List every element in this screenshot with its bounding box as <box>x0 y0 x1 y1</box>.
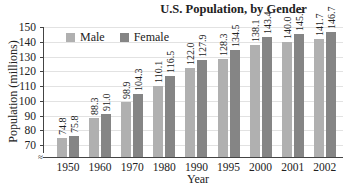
bar-value-label: 88.3 <box>89 98 100 116</box>
bar-value-label: 110.1 <box>153 61 164 83</box>
bar-value-label: 141.7 <box>314 14 325 37</box>
y-tick-label: 80 <box>6 124 36 136</box>
y-tick-label: 100 <box>6 95 36 107</box>
bar-value-label: 98.9 <box>121 82 132 100</box>
bar-male <box>314 39 324 157</box>
bar-male <box>185 68 195 157</box>
x-tick-label: 1980 <box>148 161 180 173</box>
legend-label-male: Male <box>80 30 105 45</box>
legend-swatch-female <box>120 33 129 42</box>
x-tick-label: 1970 <box>116 161 148 173</box>
x-tick-label: 2001 <box>277 161 309 173</box>
bar-female <box>133 94 143 157</box>
y-tick-label: 140 <box>6 36 36 48</box>
bar-value-label: 104.3 <box>133 69 144 92</box>
bar-male <box>57 138 67 157</box>
bar-value-label: 140.0 <box>282 16 293 39</box>
bar-value-label: 145.0 <box>294 9 305 32</box>
bar-value-label: 128.3 <box>218 34 229 57</box>
chart-title: U.S. Population, by Gender <box>120 2 347 17</box>
bar-value-label: 146.7 <box>326 6 337 29</box>
x-tick-label: 1960 <box>84 161 116 173</box>
legend-label-female: Female <box>134 30 169 45</box>
bar-value-label: 127.9 <box>197 34 208 57</box>
bar-value-label: 143.4 <box>262 11 273 34</box>
bar-value-label: 91.0 <box>101 94 112 112</box>
bar-female <box>101 114 111 157</box>
x-axis-label: Year <box>187 172 209 187</box>
y-tick-label: 130 <box>6 51 36 63</box>
y-tick-label: 110 <box>6 80 36 92</box>
y-tick-label: 70 <box>6 139 36 151</box>
bar-male <box>250 45 260 157</box>
bar-female <box>230 50 240 157</box>
y-tick-label: 120 <box>6 65 36 77</box>
bar-value-label: 138.1 <box>250 19 261 42</box>
y-axis-line <box>43 27 44 153</box>
y-tick-label: 150 <box>6 21 36 33</box>
bar-female <box>326 32 336 157</box>
bar-female <box>262 37 272 157</box>
bar-female <box>294 34 304 157</box>
x-tick-label: 1995 <box>213 161 245 173</box>
x-tick-label: 2000 <box>245 161 277 173</box>
bar-value-label: 122.0 <box>185 43 196 66</box>
axis-break-icon: ≈ <box>38 152 43 162</box>
bar-value-label: 116.5 <box>165 51 176 73</box>
x-tick-label: 1990 <box>180 161 212 173</box>
x-tick-label: 2002 <box>309 161 341 173</box>
x-tick-label: 1950 <box>52 161 84 173</box>
legend-swatch-male <box>66 33 75 42</box>
bar-male <box>218 59 228 157</box>
bar-male <box>89 118 99 157</box>
legend: Male Female <box>66 30 169 45</box>
bar-male <box>282 42 292 157</box>
y-tick-label: 90 <box>6 110 36 122</box>
bar-value-label: 134.5 <box>230 24 241 47</box>
bar-value-label: 74.8 <box>57 117 68 135</box>
bar-female <box>197 60 207 157</box>
bar-male <box>153 86 163 157</box>
bar-male <box>121 102 131 157</box>
bar-female <box>69 136 79 157</box>
bar-value-label: 75.8 <box>69 116 80 134</box>
x-axis-line <box>43 157 343 158</box>
bar-female <box>165 76 175 157</box>
